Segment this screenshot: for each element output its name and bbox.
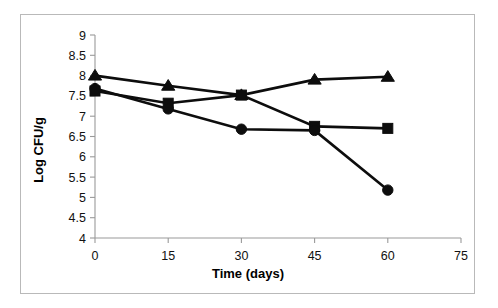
x-axis-title: Time (days) bbox=[212, 266, 284, 281]
y-tick-label: 8.5 bbox=[69, 49, 86, 63]
x-tick-label: 60 bbox=[381, 249, 395, 263]
y-tick-label: 4 bbox=[79, 232, 86, 246]
data-point-circle bbox=[383, 185, 393, 195]
y-axis: 44.555.566.577.588.59 bbox=[69, 29, 95, 246]
y-tick-label: 7.5 bbox=[69, 89, 86, 103]
data-point-circle bbox=[309, 125, 319, 135]
x-tick-label: 0 bbox=[92, 249, 99, 263]
y-tick-label: 8 bbox=[79, 69, 86, 83]
data-point-triangle bbox=[88, 69, 101, 80]
data-point-square bbox=[236, 90, 246, 100]
data-point-square bbox=[383, 123, 393, 133]
x-axis: 01530456075 bbox=[92, 238, 468, 263]
y-tick-label: 4.5 bbox=[69, 211, 86, 225]
x-tick-label: 15 bbox=[161, 249, 175, 263]
y-tick-label: 5.5 bbox=[69, 171, 86, 185]
y-tick-label: 6 bbox=[79, 150, 86, 164]
data-point-circle bbox=[163, 104, 173, 114]
y-tick-label: 5 bbox=[79, 191, 86, 205]
data-point-circle bbox=[90, 83, 100, 93]
x-tick-label: 30 bbox=[234, 249, 248, 263]
x-tick-label: 45 bbox=[308, 249, 322, 263]
y-tick-label: 7 bbox=[79, 110, 86, 124]
series-line-circle bbox=[95, 89, 388, 190]
line-chart: 44.555.566.577.588.59 01530456075 Time (… bbox=[21, 15, 474, 293]
y-tick-label: 9 bbox=[79, 29, 86, 43]
data-point-circle bbox=[236, 124, 246, 134]
y-tick-label: 6.5 bbox=[69, 130, 86, 144]
data-series-group bbox=[88, 69, 394, 195]
x-tick-label: 75 bbox=[454, 249, 468, 263]
figure-frame: 44.555.566.577.588.59 01530456075 Time (… bbox=[20, 14, 475, 294]
y-axis-title: Log CFU/g bbox=[31, 117, 46, 183]
